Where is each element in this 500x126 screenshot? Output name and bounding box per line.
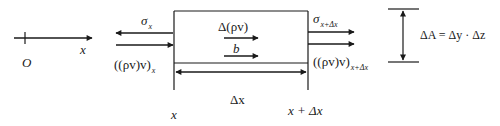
- body-force-label: b: [233, 42, 240, 55]
- accumulation-label: Δ(ρv): [218, 20, 248, 33]
- diagram-canvas: [0, 0, 500, 126]
- width-label: Δx: [230, 93, 245, 106]
- left-stress-label: σx: [141, 14, 152, 27]
- left-stress-symbol: σ: [141, 13, 147, 28]
- right-position-label: x + Δx: [288, 104, 322, 117]
- area-dimension-bracket: [388, 9, 419, 62]
- right-stress-label: σx+Δx: [313, 12, 338, 25]
- left-flux-symbol: ((ρv)v): [114, 57, 151, 72]
- left-position-label: x: [171, 108, 177, 121]
- right-stress-subscript: x+Δx: [320, 20, 337, 29]
- left-flux-subscript: x: [152, 66, 156, 75]
- axis-label-x: x: [80, 43, 86, 56]
- right-flux-symbol: ((ρv)v): [313, 54, 350, 69]
- right-flux-subscript: x+Δx: [351, 63, 368, 72]
- right-flux-label: ((ρv)v)x+Δx: [313, 55, 368, 68]
- left-stress-subscript: x: [148, 22, 152, 31]
- area-label: ΔA = Δy · Δz: [420, 29, 485, 41]
- origin-label: O: [22, 56, 31, 69]
- right-stress-symbol: σ: [313, 11, 319, 26]
- left-flux-label: ((ρv)v)x: [114, 58, 155, 71]
